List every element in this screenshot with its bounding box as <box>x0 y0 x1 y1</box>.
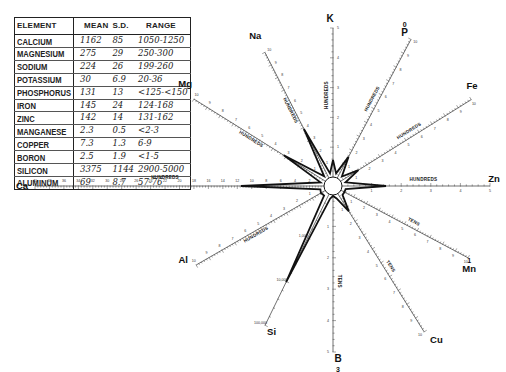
axis-unit-label: HUNDREDS <box>151 175 179 180</box>
axis-label-ca: Ca <box>16 180 29 191</box>
tick-label: 9 <box>452 254 454 258</box>
tick-label: 2 <box>350 222 352 226</box>
tick-label: 10 <box>192 259 196 263</box>
axis-label-b: B <box>334 353 341 364</box>
tick-label: 4 <box>367 250 369 254</box>
tick-label: 1 <box>326 161 328 165</box>
tick-label: 2 <box>368 167 370 171</box>
axis-unit-label: HUNDREDS <box>238 130 264 149</box>
chart-axes: 12345HUNDREDSK12345678910HUNDREDSP012345… <box>16 13 500 372</box>
tick-label: 8 <box>281 73 283 77</box>
tick-label: 36 <box>62 179 66 183</box>
tick-label: 2 <box>400 189 402 193</box>
tick-label: 9 <box>460 110 462 114</box>
tick-label: 26 <box>134 179 138 183</box>
tick-label: 9 <box>407 54 409 58</box>
tick-label: 9 <box>275 61 277 65</box>
axis-b: 12345TENSB3 <box>327 195 342 372</box>
tick-label: 5 <box>401 227 403 231</box>
tick-label: 8 <box>222 109 224 113</box>
tick-label: 7 <box>434 127 436 131</box>
tick-label: 5 <box>376 264 378 268</box>
tick-label: 12 <box>235 179 239 183</box>
tick-label: 9 <box>206 251 208 255</box>
tick-label: 38 <box>47 179 51 183</box>
tick-label: 1 <box>355 176 357 180</box>
center-circle <box>324 177 342 195</box>
tick-label: 3 <box>363 137 365 141</box>
axis-fe: 12345678910HUNDREDSFe <box>341 80 478 181</box>
tick-label: 10 <box>195 93 199 97</box>
tick-label: 3 <box>288 151 290 155</box>
axis-na: 12345678910HUNDREDSNa <box>249 30 329 178</box>
axis-extra-label: 1 <box>467 257 471 264</box>
tick-label: 2 <box>355 151 357 155</box>
tick-label: 10 <box>250 179 254 183</box>
tick-label: 34 <box>76 179 80 183</box>
tick-label: 10 <box>267 48 271 52</box>
tick-label: 6 <box>384 277 386 281</box>
tick-label: 4 <box>274 142 276 146</box>
tick-label: 5 <box>408 143 410 147</box>
tick-label: 8 <box>400 68 402 72</box>
axis-label-na: Na <box>249 30 262 41</box>
tick-label: 1 <box>371 189 373 193</box>
axis-p: 12345678910HUNDREDSP0 <box>337 21 417 178</box>
tick-label: 8 <box>265 179 267 183</box>
axis-unit-label: HUNDREDS <box>363 85 380 112</box>
tick-label: 4 <box>327 319 329 323</box>
tick-label: 3 <box>283 207 285 211</box>
axis-zn: 12345HUNDREDSZn <box>342 173 500 193</box>
tick-label: 6 <box>414 233 416 237</box>
axis-k: 12345HUNDREDSK <box>324 13 339 177</box>
axis-unit-label: HUNDREDS <box>282 97 299 124</box>
axis-label-mn: Mn <box>462 263 476 274</box>
axis-extra-label: 3 <box>336 366 340 372</box>
tick-label: 1 <box>350 200 352 204</box>
tick-label: 3 <box>430 189 432 193</box>
tick-label: 2 <box>337 116 339 120</box>
tick-label: 3 <box>337 86 339 90</box>
tick-label: 6 <box>385 95 387 99</box>
tick-label: 9 <box>410 319 412 323</box>
axis-unit-label: HUNDREDS <box>243 225 269 243</box>
tick-label: 5 <box>489 189 491 193</box>
axis-label-cu: Cu <box>430 334 443 345</box>
tick-label: 8 <box>218 244 220 248</box>
axis-al: 12345678910HUNDREDSAl <box>178 191 325 268</box>
tick-label: 2 <box>296 199 298 203</box>
tick-label: 1 <box>327 225 329 229</box>
tick-label: 7 <box>288 86 290 90</box>
tick-label: 5 <box>337 26 339 30</box>
tick-label: 3 <box>376 213 378 217</box>
tick-label: 3 <box>313 136 315 140</box>
tick-label: 3 <box>327 287 329 291</box>
tick-label: 8 <box>439 247 441 251</box>
tick-label: 2 <box>320 149 322 153</box>
tick-label: 4 <box>337 56 339 60</box>
tick-label: 1 <box>348 165 350 169</box>
tick-label: 8 <box>447 118 449 122</box>
tick-label: 10 <box>418 333 422 337</box>
axis-label-zn: Zn <box>488 173 500 184</box>
tick-label: 7 <box>427 240 429 244</box>
tick-label: 6 <box>294 99 296 103</box>
tick-label: 16 <box>206 179 210 183</box>
tick-label: 100,000 <box>254 321 267 325</box>
tick-label: 30 <box>105 179 109 183</box>
axis-unit-label: TENS <box>337 275 342 288</box>
axis-extra-label: 0 <box>403 21 407 28</box>
tick-label: 7 <box>235 118 237 122</box>
tick-label: 10 <box>413 40 417 44</box>
tick-label: 2 <box>363 206 365 210</box>
tick-label: 4 <box>270 214 272 218</box>
tick-label: 10 <box>472 102 476 106</box>
tick-label: 6 <box>280 179 282 183</box>
axis-label-p: P <box>401 27 408 38</box>
nutrient-radial-chart: 12345HUNDREDSK12345678910HUNDREDSP012345… <box>0 0 506 372</box>
tick-label: 3 <box>381 159 383 163</box>
major-tick <box>192 99 194 102</box>
axis-label-fe: Fe <box>466 80 477 91</box>
tick-label: 6 <box>244 229 246 233</box>
tick-label: 9 <box>209 101 211 105</box>
